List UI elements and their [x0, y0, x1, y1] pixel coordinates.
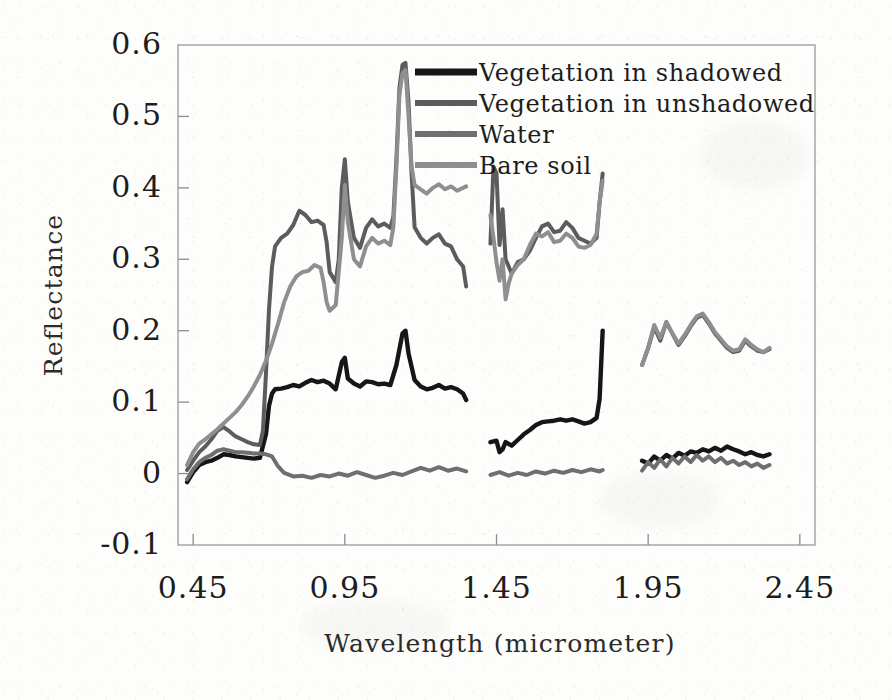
- y-tick-label: 0.3: [111, 240, 162, 275]
- y-tick-label: 0.5: [111, 97, 162, 132]
- x-tick-label: 2.45: [764, 570, 835, 605]
- x-tick-label: 0.95: [309, 570, 380, 605]
- y-tick-label: 0.4: [111, 169, 162, 204]
- y-tick-label: -0.1: [100, 526, 162, 561]
- legend-label: Water: [479, 121, 554, 149]
- x-tick-label: 1.45: [461, 570, 532, 605]
- legend-label: Bare soil: [479, 152, 592, 180]
- y-tick-label: 0.2: [111, 312, 162, 347]
- legend-label: Vegetation in shadowed: [478, 59, 783, 87]
- x-tick-label: 0.45: [158, 570, 229, 605]
- y-tick-label: 0.1: [111, 383, 162, 418]
- y-axis-title: Reflectance: [39, 214, 68, 377]
- x-tick-label: 1.95: [613, 570, 684, 605]
- x-axis-title: Wavelength (micrometer): [324, 629, 675, 658]
- y-tick-label: 0: [142, 455, 162, 490]
- figure-root: 0.60.50.40.30.20.10-0.1 0.450.951.451.95…: [0, 0, 892, 700]
- legend-label: Vegetation in unshadowed: [478, 90, 815, 118]
- y-tick-label: 0.6: [111, 26, 162, 61]
- spectral-reflectance-chart: 0.60.50.40.30.20.10-0.1 0.450.951.451.95…: [0, 0, 892, 700]
